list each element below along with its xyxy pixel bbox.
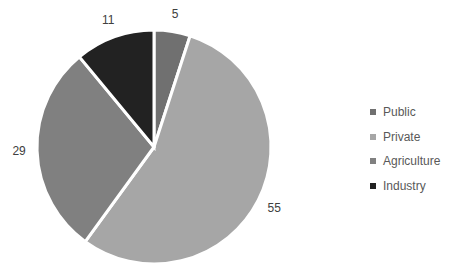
legend-swatch-industry <box>370 183 376 189</box>
legend-label: Public <box>383 105 416 119</box>
data-label-public: 5 <box>172 7 179 21</box>
legend-item-industry: Industry <box>370 174 440 199</box>
legend-item-public: Public <box>370 100 440 125</box>
legend-label: Industry <box>383 179 426 193</box>
legend: Public Private Agriculture Industry <box>370 100 440 198</box>
legend-swatch-agriculture <box>370 158 376 164</box>
legend-item-agriculture: Agriculture <box>370 149 440 174</box>
data-label-industry: 11 <box>102 13 115 27</box>
data-label-agriculture: 29 <box>12 144 26 158</box>
pie-slices <box>37 30 271 264</box>
legend-item-private: Private <box>370 125 440 150</box>
legend-swatch-private <box>370 134 376 140</box>
legend-swatch-public <box>370 109 376 115</box>
legend-label: Private <box>383 130 420 144</box>
data-label-private: 55 <box>268 201 282 215</box>
legend-label: Agriculture <box>383 154 440 168</box>
